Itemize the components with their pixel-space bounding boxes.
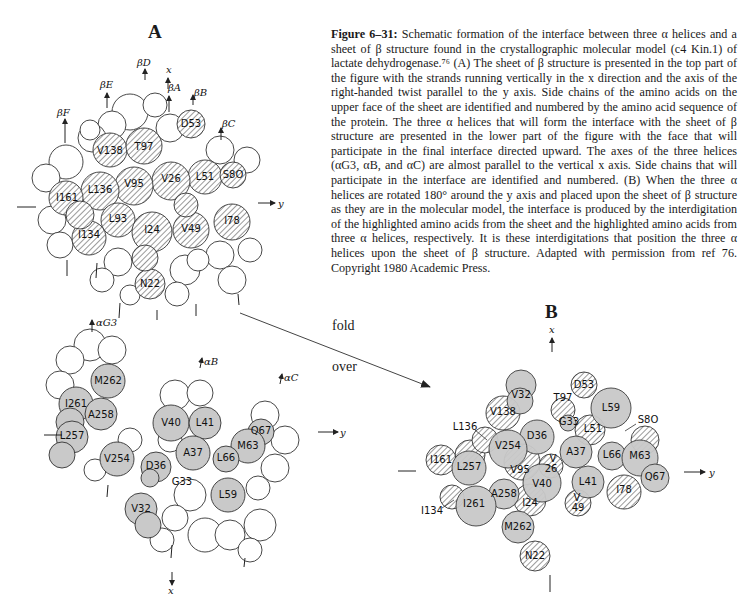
svg-text:L257: L257 bbox=[457, 461, 482, 472]
svg-text:A258: A258 bbox=[88, 409, 114, 420]
svg-text:N22: N22 bbox=[525, 550, 545, 561]
svg-text:V40: V40 bbox=[161, 417, 181, 428]
svg-text:I78: I78 bbox=[616, 484, 632, 495]
fold-over-arrow bbox=[240, 313, 430, 387]
svg-text:M63: M63 bbox=[237, 440, 258, 451]
helix-label-aB: αB bbox=[204, 356, 218, 367]
svg-text:V95: V95 bbox=[510, 464, 530, 475]
svg-text:Q67: Q67 bbox=[645, 471, 666, 482]
svg-text:V254: V254 bbox=[495, 440, 521, 451]
svg-text:I134: I134 bbox=[421, 505, 443, 516]
svg-text:D36: D36 bbox=[527, 430, 547, 441]
svg-text:I134: I134 bbox=[78, 229, 100, 240]
svg-text:I261: I261 bbox=[463, 498, 485, 509]
svg-text:N22: N22 bbox=[140, 278, 160, 289]
x-axis-label: x bbox=[549, 324, 555, 335]
panel-a-helices: αG3 αB αC y x M262I261A258 V40L41L257 Q6… bbox=[44, 317, 346, 596]
svg-text:49: 49 bbox=[572, 502, 585, 513]
svg-text:D53: D53 bbox=[574, 379, 594, 390]
strand-label-bF: βF bbox=[56, 107, 71, 118]
svg-text:I161: I161 bbox=[56, 192, 78, 203]
svg-text:V40: V40 bbox=[532, 478, 552, 489]
figure-canvas: βD βE x βA βB βC βF y D53V138T97 L51S8OV… bbox=[0, 0, 747, 612]
panel-a-sheet: βD βE x βA βB βC βF y D53V138T97 L51S8OV… bbox=[17, 57, 284, 320]
panel-b-interface: x y D53V32T97 L59V138S8O G33L136L51 D36V… bbox=[398, 324, 715, 592]
svg-text:L59: L59 bbox=[602, 402, 620, 413]
svg-text:L136: L136 bbox=[453, 421, 478, 432]
svg-text:G33: G33 bbox=[172, 476, 192, 487]
svg-text:I161: I161 bbox=[430, 454, 452, 465]
svg-text:A258: A258 bbox=[491, 488, 517, 499]
svg-text:26: 26 bbox=[545, 463, 558, 474]
svg-text:V26: V26 bbox=[161, 173, 181, 184]
svg-text:M63: M63 bbox=[629, 450, 650, 461]
svg-text:G33: G33 bbox=[559, 416, 579, 427]
svg-text:D53: D53 bbox=[181, 118, 201, 129]
y-axis-label: y bbox=[339, 427, 346, 438]
strand-label-bE: βE bbox=[99, 79, 114, 90]
svg-text:V138: V138 bbox=[97, 145, 123, 156]
svg-text:L257: L257 bbox=[60, 430, 85, 441]
svg-text:S8O: S8O bbox=[223, 169, 244, 180]
svg-text:S8O: S8O bbox=[638, 414, 659, 425]
svg-text:V32: V32 bbox=[511, 389, 531, 400]
y-axis-label: y bbox=[277, 198, 284, 209]
svg-text:D36: D36 bbox=[146, 460, 166, 471]
svg-text:A37: A37 bbox=[566, 446, 586, 457]
strand-label-bA: βA bbox=[167, 82, 181, 93]
svg-text:V138: V138 bbox=[490, 406, 516, 417]
strand-label-bB: βB bbox=[193, 87, 207, 98]
svg-text:L51: L51 bbox=[584, 423, 602, 434]
svg-text:I261: I261 bbox=[65, 398, 87, 409]
svg-text:M262: M262 bbox=[94, 375, 122, 386]
svg-text:L41: L41 bbox=[579, 476, 597, 487]
svg-text:T97: T97 bbox=[553, 392, 573, 403]
x-axis-label: x bbox=[168, 585, 174, 596]
svg-text:A37: A37 bbox=[183, 447, 203, 458]
helix-label-aG3: αG3 bbox=[96, 317, 117, 328]
y-axis-label: y bbox=[708, 467, 715, 478]
svg-text:I24: I24 bbox=[522, 497, 538, 508]
svg-text:V254: V254 bbox=[104, 453, 130, 464]
helix-label-aC: αC bbox=[284, 372, 299, 383]
strand-label-bD: βD bbox=[136, 57, 151, 68]
svg-text:L66: L66 bbox=[217, 452, 235, 463]
strand-label-bC: βC bbox=[221, 118, 236, 129]
svg-text:I24: I24 bbox=[144, 224, 160, 235]
svg-text:L51: L51 bbox=[196, 171, 214, 182]
svg-text:L136: L136 bbox=[88, 184, 113, 195]
svg-text:L93: L93 bbox=[109, 213, 127, 224]
svg-text:Q67: Q67 bbox=[251, 425, 272, 436]
svg-text:M262: M262 bbox=[504, 521, 532, 532]
svg-text:L41: L41 bbox=[196, 417, 214, 428]
svg-text:L66: L66 bbox=[603, 449, 621, 460]
svg-text:T97: T97 bbox=[134, 141, 154, 152]
svg-text:V49: V49 bbox=[181, 223, 201, 234]
svg-text:I78: I78 bbox=[224, 215, 240, 226]
svg-text:L59: L59 bbox=[219, 489, 237, 500]
svg-text:V32: V32 bbox=[131, 503, 151, 514]
svg-text:V95: V95 bbox=[124, 178, 144, 189]
x-axis-label: x bbox=[166, 64, 172, 75]
